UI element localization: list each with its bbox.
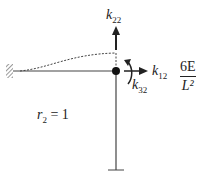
arrowhead-k22 [112, 26, 120, 35]
fraction-label: 6E L² [180, 60, 196, 93]
joint [112, 67, 120, 75]
label-k22: k22 [106, 8, 121, 25]
fixed-support [6, 64, 13, 78]
label-r2: r2 = 1 [37, 108, 69, 125]
arrowhead-k12 [139, 67, 148, 75]
deflected-shape [20, 53, 116, 71]
fraction-denominator: L² [180, 77, 196, 93]
label-k12: k12 [152, 64, 167, 81]
fraction-numerator: 6E [180, 60, 196, 77]
frame-diagram [0, 0, 206, 172]
label-k32: k32 [132, 78, 147, 95]
